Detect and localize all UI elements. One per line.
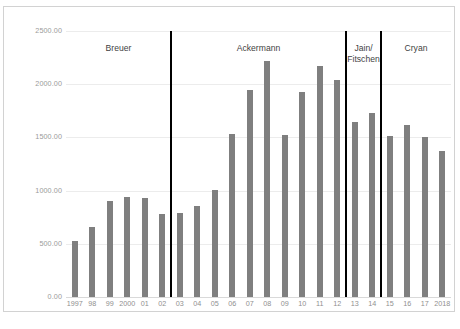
bar[interactable]	[107, 201, 113, 297]
y-axis-tick-label: 2000.00	[8, 80, 62, 88]
bar[interactable]	[282, 135, 288, 297]
bar-slot	[119, 31, 137, 297]
bar[interactable]	[159, 214, 165, 297]
bar-slot	[416, 31, 434, 297]
bar-slot	[399, 31, 417, 297]
bar[interactable]	[264, 61, 270, 297]
era-divider	[170, 31, 172, 297]
bar-slot	[346, 31, 364, 297]
bar-slot	[434, 31, 452, 297]
bar-slot	[171, 31, 189, 297]
bar[interactable]	[369, 113, 375, 297]
bar[interactable]	[439, 151, 445, 297]
y-axis: 0.00500.001000.001500.002000.002500.00	[4, 31, 62, 297]
era-divider	[380, 31, 382, 297]
gridline	[66, 297, 451, 298]
bar-slot	[294, 31, 312, 297]
bar[interactable]	[142, 198, 148, 297]
bar-slot	[259, 31, 277, 297]
bar[interactable]	[317, 66, 323, 297]
bar[interactable]	[89, 227, 95, 297]
bar-slot	[154, 31, 172, 297]
bar[interactable]	[404, 125, 410, 297]
bar[interactable]	[194, 206, 200, 297]
bar-slot	[276, 31, 294, 297]
bar-slot	[101, 31, 119, 297]
x-axis-tick-label: 2018	[430, 299, 456, 309]
bar[interactable]	[334, 80, 340, 297]
bar-slot	[241, 31, 259, 297]
bar[interactable]	[422, 137, 428, 297]
y-axis-tick-label: 2500.00	[8, 27, 62, 35]
bar-slot	[189, 31, 207, 297]
bar-slot	[381, 31, 399, 297]
era-label: Cryan	[381, 43, 451, 54]
bar[interactable]	[352, 122, 358, 297]
bar[interactable]	[177, 213, 183, 297]
bar[interactable]	[299, 92, 305, 297]
plot-area: BreuerAckermannJain/ FitschenCryan	[66, 31, 451, 297]
era-label: Jain/ Fitschen	[346, 43, 381, 65]
bar[interactable]	[124, 197, 130, 297]
bar[interactable]	[212, 190, 218, 297]
chart-frame: 0.00500.001000.001500.002000.002500.00 B…	[3, 6, 455, 312]
bar-slot	[311, 31, 329, 297]
bar-slot	[206, 31, 224, 297]
bar[interactable]	[247, 90, 253, 297]
era-label: Breuer	[66, 43, 171, 54]
bar-slot	[224, 31, 242, 297]
y-axis-tick-label: 0.00	[8, 293, 62, 301]
bar-slot	[329, 31, 347, 297]
bar[interactable]	[72, 241, 78, 297]
era-label: Ackermann	[171, 43, 346, 54]
y-axis-tick-label: 500.00	[8, 240, 62, 248]
bar-slot	[84, 31, 102, 297]
era-divider	[345, 31, 347, 297]
y-axis-tick-label: 1000.00	[8, 187, 62, 195]
x-axis: 1997989920000102030405060708091011121314…	[66, 299, 451, 313]
bar[interactable]	[387, 136, 393, 297]
figure: 0.00500.001000.001500.002000.002500.00 B…	[0, 0, 460, 329]
y-axis-tick-label: 1500.00	[8, 133, 62, 141]
bar-slot	[136, 31, 154, 297]
bar[interactable]	[229, 134, 235, 297]
bar-slot	[364, 31, 382, 297]
bar-series	[66, 31, 451, 297]
bar-slot	[66, 31, 84, 297]
